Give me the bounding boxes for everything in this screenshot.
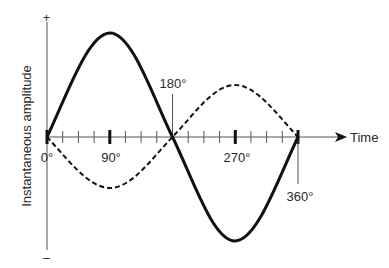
sine-wave-diagram: + – Instantaneous amplitude Time 0° 90° … xyxy=(0,0,389,268)
x-axis-label: Time xyxy=(350,130,378,145)
tick-label-360: 360° xyxy=(287,189,314,204)
tick-label-90: 90° xyxy=(101,150,121,165)
y-axis-minus-sign: – xyxy=(43,251,50,265)
tick-label-270: 270° xyxy=(224,150,251,165)
tick-label-0: 0° xyxy=(41,150,53,165)
y-axis-label: Instantaneous amplitude xyxy=(19,65,34,207)
tick-label-180: 180° xyxy=(160,76,187,91)
y-axis-plus-sign: + xyxy=(43,11,50,25)
